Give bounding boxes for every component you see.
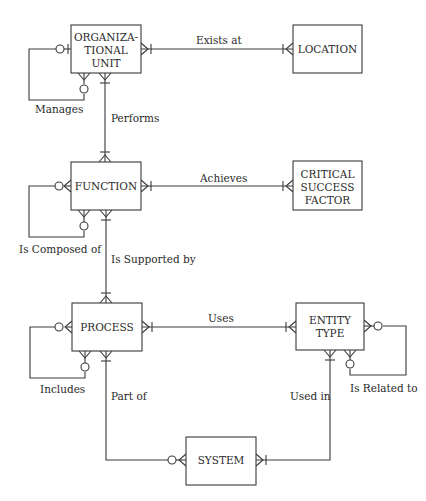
relationship-performs [99,73,111,162]
entity-function[interactable]: FUNCTION [71,162,141,210]
entity-location[interactable]: LOCATION [293,25,362,73]
entity-label: TYPE [316,327,345,339]
er-diagram: ORGANIZA- TIONAL UNIT LOCATION FUNCTION … [0,0,426,501]
entity-label: ENTITY [309,314,352,326]
entity-label: UNIT [91,57,120,69]
entity-system[interactable]: SYSTEM [186,437,256,485]
entity-label: PROCESS [80,321,133,333]
entity-label: FACTOR [305,194,352,206]
entity-entity-type[interactable]: ENTITY TYPE [296,303,364,350]
label-part-of: Part of [111,390,148,402]
label-achieves: Achieves [199,172,247,184]
entity-label: TIONAL [84,44,128,56]
relationship-used-in [256,350,336,466]
label-is-supported-by: Is Supported by [111,253,196,265]
label-uses: Uses [208,312,234,324]
entity-organizational-unit[interactable]: ORGANIZA- TIONAL UNIT [71,25,141,73]
entity-critical-success-factor[interactable]: CRITICAL SUCCESS FACTOR [293,161,362,210]
label-performs: Performs [111,112,159,124]
entity-label: SUCCESS [301,181,355,193]
entity-label: ORGANIZA- [74,31,139,43]
entity-process[interactable]: PROCESS [72,303,142,351]
label-exists-at: Exists at [196,34,243,46]
label-manages: Manages [35,103,83,115]
label-includes: Includes [40,383,85,395]
label-is-composed-of: Is Composed of [19,243,102,255]
label-is-related-to: Is Related to [350,382,418,394]
entity-label: FUNCTION [75,180,137,192]
entity-label: CRITICAL [301,168,355,180]
relationship-part-of [100,351,186,466]
label-used-in: Used in [290,390,331,402]
entity-label: SYSTEM [198,454,245,466]
entity-label: LOCATION [298,43,358,55]
